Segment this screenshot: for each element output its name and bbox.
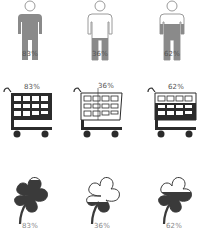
cart-83-label: 83% <box>12 83 52 91</box>
shopping-cart-icon <box>2 84 56 140</box>
cart-36: 36% <box>72 84 126 140</box>
shopping-cart-icon <box>146 84 200 140</box>
cart-36-label: 36% <box>86 82 126 90</box>
person-36-label: 36% <box>80 50 120 58</box>
person-36: 36% <box>84 0 120 62</box>
shopping-cart-icon <box>72 84 126 140</box>
cart-83: 83% <box>2 84 56 140</box>
clover-36-label: 36% <box>82 222 122 230</box>
person-62: 62% <box>156 0 192 62</box>
person-83-label: 83% <box>10 50 50 58</box>
clover-83: 83% <box>6 174 52 232</box>
cart-62-label: 62% <box>156 83 196 91</box>
clover-62-label: 62% <box>154 222 194 230</box>
clover-62: 62% <box>150 174 196 232</box>
person-62-label: 62% <box>152 50 192 58</box>
clover-36: 36% <box>78 174 124 232</box>
cart-62: 62% <box>146 84 200 140</box>
person-83: 83% <box>14 0 50 62</box>
clover-83-label: 83% <box>10 222 50 230</box>
